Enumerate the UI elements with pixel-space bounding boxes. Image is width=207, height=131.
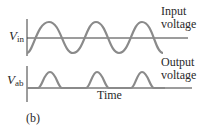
- vin-label: Vin: [9, 28, 24, 44]
- input-voltage-plot: Vin Input voltage: [9, 4, 196, 56]
- rectifier-waveform-diagram: Vin Input voltage Vab Output voltage Tim…: [0, 0, 207, 131]
- time-axis-label: Time: [97, 88, 122, 102]
- input-voltage-label-line1: Input: [161, 4, 187, 18]
- output-rectified-wave: [27, 72, 165, 88]
- panel-label: (b): [26, 111, 40, 125]
- output-voltage-label-line2: voltage: [161, 68, 196, 82]
- input-voltage-label-line2: voltage: [161, 17, 196, 31]
- output-voltage-label-line1: Output: [161, 55, 195, 69]
- vab-label: Vab: [7, 72, 24, 88]
- output-voltage-plot: Vab Output voltage Time: [7, 55, 196, 102]
